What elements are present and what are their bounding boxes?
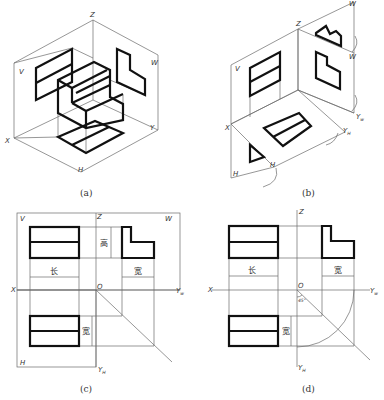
figure-d: 长 宽 宽 Z X O Yw YH 45° (d) (207, 208, 378, 394)
axis-label-o: O (298, 282, 304, 290)
axis-label-w-top: W (349, 0, 357, 8)
axis-label-x: X (4, 137, 10, 145)
angle-label: 45° (298, 298, 306, 303)
axis-label-v: V (19, 68, 25, 76)
dim-length-label: 长 (50, 266, 58, 276)
side-view (322, 226, 354, 258)
dim-height-label: 高 (100, 238, 108, 248)
axis-label-x: X (10, 286, 16, 294)
orthographic-projection-diagram: Z V W X Y H (a) (0, 0, 384, 400)
axis-label-yw: Yw (370, 287, 378, 296)
axis-label-v: V (235, 65, 241, 73)
axis-label-x: X (207, 286, 213, 294)
axis-label-y: Y (150, 124, 155, 132)
axis-label-z: Z (295, 20, 301, 28)
angle-arc (297, 295, 302, 297)
caption-b: (b) (302, 188, 315, 198)
caption-c: (c) (80, 384, 92, 394)
axis-label-z: Z (89, 11, 95, 19)
axis-label-yw: Yw (176, 287, 184, 296)
axis-label-v: V (20, 215, 26, 223)
front-view (229, 226, 278, 258)
w-projection (117, 49, 145, 95)
v-plane (231, 29, 298, 124)
axis-label-h: H (20, 359, 26, 367)
axis-label-h: H (270, 161, 276, 169)
caption-d: (d) (302, 384, 315, 394)
caption-a: (a) (80, 188, 92, 198)
dim-width-side-label: 宽 (134, 266, 142, 276)
top-view (229, 316, 278, 346)
dim-width-top-label: 宽 (282, 326, 290, 336)
front-view (30, 227, 79, 258)
axis-label-x: X (224, 124, 230, 132)
axis-label-o: O (97, 283, 103, 291)
isometric-object (58, 62, 123, 128)
figure-a: Z V W X Y H (a) (4, 11, 159, 198)
v-w-plane-border (17, 213, 180, 290)
v-projection (250, 52, 280, 96)
figure-b: Z V W W X Yw YH H H (b) (224, 0, 364, 198)
h-projection (58, 121, 123, 153)
h-projection (264, 113, 311, 146)
axis-label-h-corner: H (233, 170, 239, 178)
axis-label-w: W (165, 215, 173, 223)
dim-length-label: 长 (248, 265, 256, 275)
dim-width-side-label: 宽 (334, 265, 342, 275)
figure-c: 长 高 宽 宽 V Z W X O Yw H YH (c) (10, 213, 184, 394)
w-projection-folded (316, 26, 341, 46)
top-view (30, 316, 79, 346)
axis-label-z: Z (298, 208, 304, 216)
side-view (122, 227, 154, 258)
axis-label-h: H (78, 166, 84, 174)
axis-label-yw: Yw (356, 113, 364, 122)
axis-label-yh: YH (98, 366, 106, 375)
w-projection (316, 52, 340, 89)
axis-label-w: W (151, 59, 159, 67)
dim-width-top-label: 宽 (82, 326, 90, 336)
axis-label-z: Z (96, 213, 102, 221)
w-projection-rotated (250, 145, 264, 162)
axis-label-yh: YH (343, 127, 351, 136)
axis-label-yh: YH (298, 364, 306, 373)
axis-label-w: W (349, 53, 357, 61)
